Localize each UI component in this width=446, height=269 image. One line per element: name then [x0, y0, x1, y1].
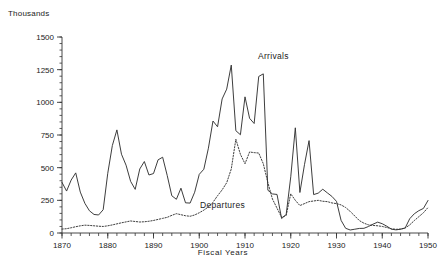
y-axis-tick-label: 750	[41, 131, 55, 140]
y-axis-tick-label: 500	[41, 164, 55, 173]
y-axis-tick-label: 250	[41, 196, 55, 205]
series-line-departures	[62, 139, 428, 229]
series-label-departures: Departures	[200, 200, 245, 210]
x-axis-title: Fiscal Years	[0, 248, 446, 257]
y-axis-tick-label: 1000	[36, 98, 54, 107]
series-label-arrivals: Arrivals	[258, 51, 289, 61]
line-chart-plot: 0250500750100012501500187018801890190019…	[0, 0, 446, 269]
y-axis-unit-label: Thousands	[8, 9, 49, 18]
chart-figure: Thousands 025050075010001250150018701880…	[0, 0, 446, 269]
y-axis-tick-label: 1500	[36, 33, 54, 42]
y-axis-tick-label: 1250	[36, 66, 54, 75]
y-axis-tick-label: 0	[50, 229, 55, 238]
